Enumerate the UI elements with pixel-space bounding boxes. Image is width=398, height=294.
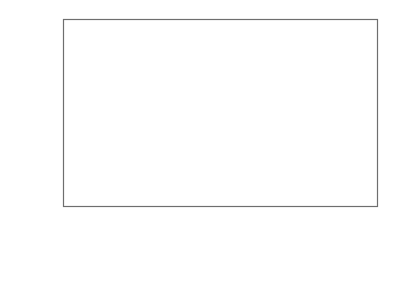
stat-average — [18, 243, 20, 255]
normality-pvalue — [268, 255, 326, 267]
stat-stdev — [18, 255, 20, 267]
plot-canvas — [0, 0, 398, 294]
probability-plot-figure — [0, 0, 398, 294]
plot-frame — [64, 20, 378, 207]
summary-statistics — [18, 243, 20, 278]
normality-r — [268, 243, 326, 255]
stat-n — [18, 266, 20, 278]
normality-test-panel — [268, 243, 326, 266]
